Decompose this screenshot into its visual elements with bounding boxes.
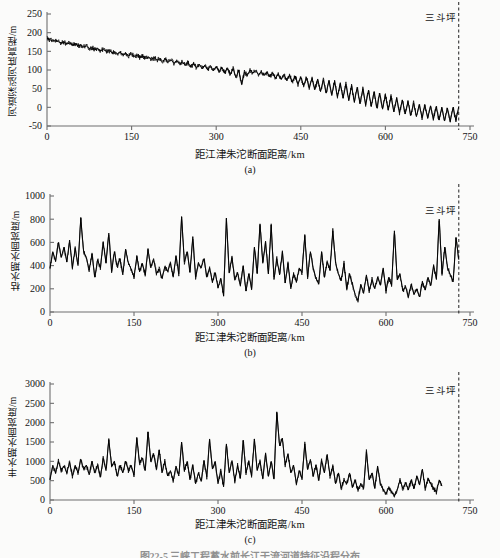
svg-text:3000: 3000 <box>25 378 45 389</box>
svg-text:2500: 2500 <box>25 398 45 409</box>
figure-caption: 图22-5 三峡工程蓄水前长江干流河道特征沿程分布 <box>0 548 500 558</box>
svg-text:450: 450 <box>295 505 310 516</box>
svg-text:600: 600 <box>379 505 394 516</box>
svg-text:2000: 2000 <box>25 417 45 428</box>
marker-label-sandouping-c: 三斗坪 <box>425 383 457 397</box>
marker-label-sandouping-a: 三斗坪 <box>425 10 457 24</box>
svg-text:150: 150 <box>124 131 139 142</box>
svg-text:0: 0 <box>48 317 53 328</box>
svg-text:750: 750 <box>463 317 478 328</box>
svg-text:750: 750 <box>463 131 478 142</box>
svg-text:0: 0 <box>37 102 42 113</box>
figure-container: 河道深泓河底高程/m -5005010015020025001503004506… <box>0 0 500 558</box>
marker-label-sandouping-b: 三斗坪 <box>425 203 457 217</box>
svg-text:0: 0 <box>40 306 45 317</box>
chart-panel-c: 丰水期水面宽度/m 050010001500200025003000015030… <box>0 364 500 558</box>
svg-text:0: 0 <box>48 505 53 516</box>
svg-text:750: 750 <box>463 505 478 516</box>
svg-text:0: 0 <box>45 131 50 142</box>
svg-text:600: 600 <box>379 317 394 328</box>
svg-text:400: 400 <box>30 260 45 271</box>
x-axis-label-b: 距江津朱沱断面距离/km <box>0 329 500 344</box>
svg-text:300: 300 <box>211 317 226 328</box>
svg-text:300: 300 <box>211 505 226 516</box>
svg-text:1500: 1500 <box>25 436 45 447</box>
svg-text:450: 450 <box>293 131 308 142</box>
svg-text:450: 450 <box>295 317 310 328</box>
svg-text:1000: 1000 <box>25 190 45 201</box>
svg-text:1000: 1000 <box>25 456 45 467</box>
svg-text:200: 200 <box>30 283 45 294</box>
x-axis-label-a: 距江津朱沱断面距离/km <box>0 146 500 161</box>
svg-text:0: 0 <box>40 494 45 505</box>
panel-tag-b: (b) <box>0 347 500 358</box>
chart-panel-b: 枯水期水面宽度/m 020040060080010000150300450600… <box>0 182 500 364</box>
svg-text:200: 200 <box>27 27 42 38</box>
panel-tag-c: (c) <box>0 534 500 545</box>
svg-text:150: 150 <box>27 46 42 57</box>
svg-text:150: 150 <box>127 505 142 516</box>
panel-tag-a: (a) <box>0 164 500 175</box>
svg-text:150: 150 <box>127 317 142 328</box>
x-axis-label-c: 距江津朱沱断面距离/km <box>0 516 500 531</box>
svg-text:100: 100 <box>27 64 42 75</box>
svg-text:800: 800 <box>30 214 45 225</box>
svg-text:600: 600 <box>30 237 45 248</box>
svg-text:300: 300 <box>209 131 224 142</box>
chart-panel-a: 河道深泓河底高程/m -5005010015020025001503004506… <box>0 0 500 182</box>
svg-text:250: 250 <box>27 8 42 19</box>
svg-text:500: 500 <box>30 475 45 486</box>
svg-text:600: 600 <box>378 131 393 142</box>
svg-text:-50: -50 <box>29 120 42 131</box>
svg-text:50: 50 <box>32 83 42 94</box>
